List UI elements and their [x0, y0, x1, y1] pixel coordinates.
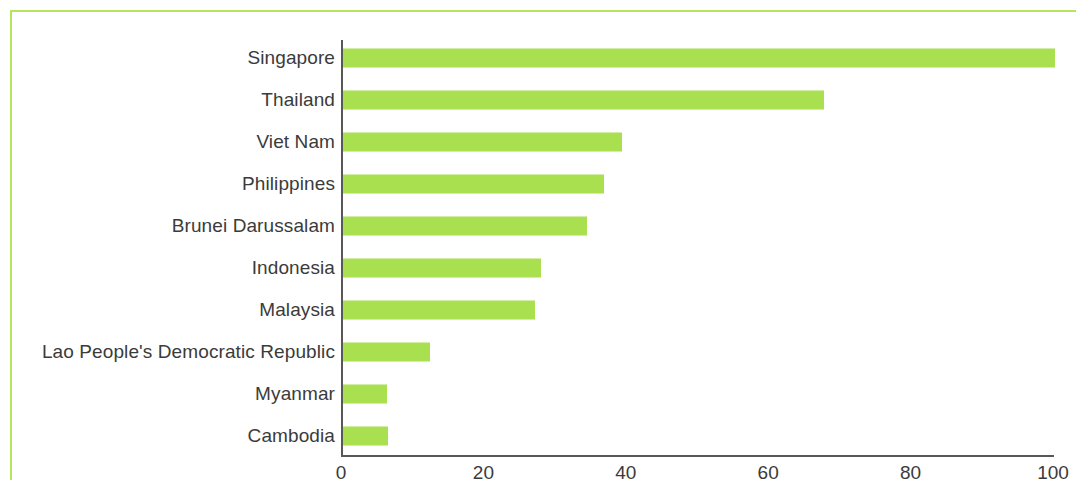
bar-category-label: Indonesia — [252, 257, 335, 279]
x-axis-tick-label: 40 — [615, 462, 636, 484]
bar-fill — [343, 343, 430, 362]
bar-track — [343, 385, 387, 404]
bar-category-label: Thailand — [261, 89, 335, 111]
bar-track — [343, 259, 541, 278]
x-axis-tick-label: 100 — [1037, 462, 1069, 484]
bar-row: Viet Nam — [0, 121, 1080, 163]
bar-fill — [343, 427, 388, 446]
bar-category-label: Singapore — [247, 47, 335, 69]
bar-track — [343, 49, 1055, 68]
bar-fill — [343, 91, 824, 110]
bar-row: Indonesia — [0, 247, 1080, 289]
bar-fill — [343, 133, 622, 152]
bar-fill — [343, 385, 387, 404]
bar-fill — [343, 175, 604, 194]
bar-row: Brunei Darussalam — [0, 205, 1080, 247]
bar-track — [343, 427, 388, 446]
bar-track — [343, 175, 604, 194]
bar-track — [343, 91, 824, 110]
bar-row: Lao People's Democratic Republic — [0, 331, 1080, 373]
bar-row: Philippines — [0, 163, 1080, 205]
bar-track — [343, 343, 430, 362]
bar-category-label: Lao People's Democratic Republic — [42, 341, 335, 363]
x-axis-tick-label: 80 — [900, 462, 921, 484]
bar-category-label: Malaysia — [259, 299, 335, 321]
bar-row: Myanmar — [0, 373, 1080, 415]
bar-row: Cambodia — [0, 415, 1080, 457]
x-axis-tick-label: 0 — [336, 462, 347, 484]
bar-row: Thailand — [0, 79, 1080, 121]
x-axis-tick-labels: 020406080100 — [0, 462, 1080, 492]
bar-category-label: Cambodia — [248, 425, 335, 447]
bar-track — [343, 301, 535, 320]
bar-fill — [343, 217, 587, 236]
x-axis-tick-label: 20 — [473, 462, 494, 484]
bar-category-label: Myanmar — [255, 383, 335, 405]
bar-category-label: Philippines — [242, 173, 335, 195]
bar-category-label: Brunei Darussalam — [172, 215, 335, 237]
x-axis-tick-label: 60 — [758, 462, 779, 484]
bar-category-label: Viet Nam — [256, 131, 335, 153]
bar-track — [343, 217, 587, 236]
chart-page: SingaporeThailandViet NamPhilippinesBrun… — [0, 0, 1080, 495]
bar-row: Malaysia — [0, 289, 1080, 331]
bar-fill — [343, 259, 541, 278]
bar-row: Singapore — [0, 37, 1080, 79]
bar-chart-plot-area: SingaporeThailandViet NamPhilippinesBrun… — [0, 0, 1080, 495]
bar-fill — [343, 49, 1055, 68]
bar-track — [343, 133, 622, 152]
bar-fill — [343, 301, 535, 320]
